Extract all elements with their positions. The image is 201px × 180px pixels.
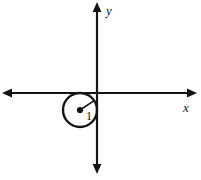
- circle-center-dot: [77, 107, 83, 113]
- y-axis-label: y: [104, 3, 112, 18]
- geometry-diagram-svg: y x 1: [0, 0, 201, 180]
- x-axis-left-arrow-icon: [2, 89, 12, 98]
- x-axis-label: x: [182, 100, 189, 115]
- coordinate-plane-figure: y x 1: [0, 0, 201, 180]
- radius-length-label: 1: [86, 109, 92, 123]
- x-axis-right-arrow-icon: [187, 89, 197, 98]
- y-axis-top-arrow-icon: [93, 2, 102, 12]
- y-axis-bottom-arrow-icon: [93, 164, 102, 174]
